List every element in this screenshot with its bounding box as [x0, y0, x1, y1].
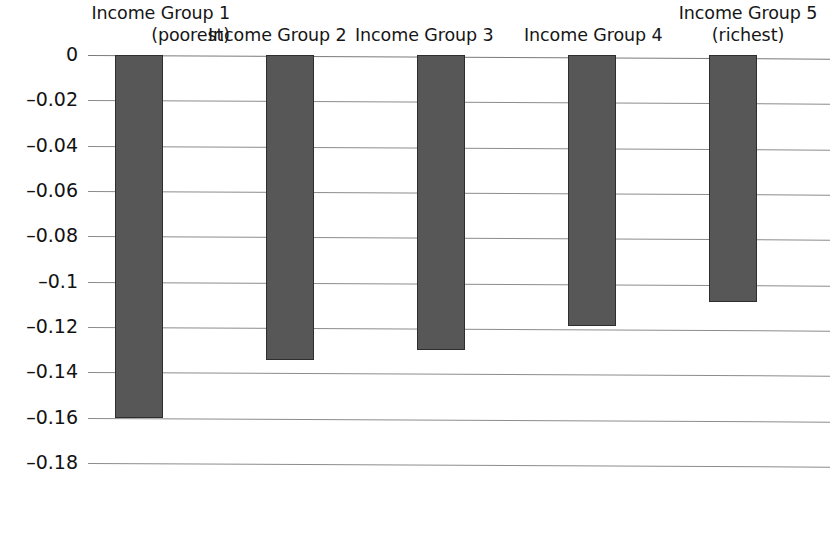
category-label-line1: Income Group 3	[355, 24, 494, 46]
y-axis-tick-label: –0.08	[0, 226, 78, 245]
category-label-line1: Income Group 5	[666, 2, 830, 24]
bar	[568, 55, 616, 326]
y-axis-tick-label: 0	[0, 45, 78, 64]
y-axis-tick-label: –0.02	[0, 90, 78, 109]
category-label-line1: Income Group 2	[208, 24, 347, 46]
bar	[115, 55, 163, 418]
bar	[417, 55, 465, 350]
category-label-line2: (richest)	[666, 24, 830, 46]
gridline	[88, 418, 830, 423]
y-axis-tick-label: –0.18	[0, 453, 78, 472]
category-label-income-group-5: Income Group 5 (richest)	[666, 2, 830, 46]
category-label-income-group-1: Income Group 1 (poorest)	[62, 2, 230, 46]
gridline	[88, 463, 830, 468]
gridline	[88, 372, 830, 377]
category-label-income-group-3: Income Group 3	[355, 24, 494, 46]
bar	[266, 55, 314, 360]
plot-area: 0–0.02–0.04–0.06–0.08–0.1–0.12–0.14–0.16…	[88, 55, 830, 525]
category-label-line1: Income Group 4	[524, 24, 663, 46]
y-axis-tick-label: –0.06	[0, 181, 78, 200]
y-axis-tick-label: –0.14	[0, 362, 78, 381]
y-axis-tick-label: –0.16	[0, 408, 78, 427]
bar-chart: Income Group 1 (poorest) Income Group 2 …	[0, 0, 830, 535]
category-label-income-group-4: Income Group 4	[524, 24, 663, 46]
category-label-line1: Income Group 1	[62, 2, 230, 24]
category-label-income-group-2: Income Group 2	[208, 24, 347, 46]
category-label-line2: (poorest)	[62, 24, 230, 46]
y-axis-tick-label: –0.1	[0, 272, 78, 291]
bar	[709, 55, 757, 302]
y-axis-tick-label: –0.12	[0, 317, 78, 336]
y-axis-tick-label: –0.04	[0, 136, 78, 155]
